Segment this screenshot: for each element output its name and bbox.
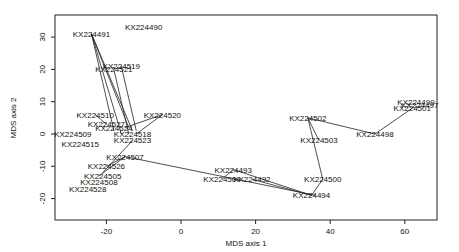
x-tick-label: 60 bbox=[400, 227, 409, 236]
y-tick-label: -10 bbox=[38, 160, 47, 172]
y-tick-label: 10 bbox=[38, 97, 47, 106]
point-label: KX224527 bbox=[88, 120, 126, 129]
x-tick-label: -20 bbox=[101, 227, 113, 236]
point-label: KX224490 bbox=[125, 23, 163, 32]
point-label: KX224523 bbox=[114, 136, 152, 145]
x-tick-label: 20 bbox=[251, 227, 260, 236]
x-axis: -200204060 bbox=[101, 220, 410, 236]
point-labels: KX224490KX224491KX224519KX224521KX224510… bbox=[54, 23, 439, 200]
point-label: KX224520 bbox=[144, 111, 182, 120]
point-label: KX224521 bbox=[95, 65, 133, 74]
mds-scatter-chart: KX224490KX224491KX224519KX224521KX224510… bbox=[0, 0, 459, 252]
y-axis-label: MDS axis 2 bbox=[9, 97, 18, 138]
point-label: KX224494 bbox=[293, 191, 331, 200]
point-label: KX224515 bbox=[62, 140, 100, 149]
x-axis-label: MDS axis 1 bbox=[226, 239, 267, 248]
point-label: KX224526 bbox=[88, 162, 126, 171]
point-label: KX224528 bbox=[69, 185, 107, 194]
x-tick-label: 0 bbox=[179, 227, 184, 236]
point-label: KX224493 bbox=[215, 166, 253, 175]
point-label: KX224510 bbox=[77, 111, 115, 120]
y-tick-label: 0 bbox=[38, 131, 47, 136]
point-label: KX224502 bbox=[289, 114, 327, 123]
point-label: KX224500 bbox=[304, 175, 342, 184]
point-label: KX224507 bbox=[106, 153, 144, 162]
point-label: KX224499 bbox=[397, 98, 435, 107]
y-tick-label: 20 bbox=[38, 64, 47, 73]
point-label: KX224509 bbox=[54, 130, 92, 139]
x-tick-label: 40 bbox=[326, 227, 335, 236]
point-label: KX224491 bbox=[73, 30, 111, 39]
point-label: KX224492 bbox=[233, 175, 271, 184]
y-axis: -20-100102030 bbox=[38, 32, 55, 204]
y-tick-label: -20 bbox=[38, 192, 47, 204]
y-tick-label: 30 bbox=[38, 32, 47, 41]
point-label: KX224498 bbox=[356, 130, 394, 139]
point-label: KX224503 bbox=[300, 136, 338, 145]
connector-line bbox=[308, 118, 323, 179]
